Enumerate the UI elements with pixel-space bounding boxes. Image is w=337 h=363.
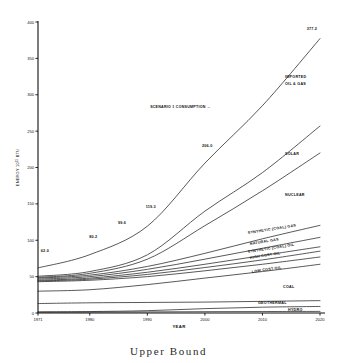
y-tick-label: 150 (27, 201, 35, 206)
y-tick-label: 300 (27, 92, 35, 97)
series-label-nuclear: NUCLEAR (285, 193, 305, 197)
axes: 0501001502002503003504001971198019902000… (27, 20, 325, 330)
series-labels: IMPORTEDOIL & GASSOLARNUCLEARSYNTHETIC (… (248, 75, 307, 312)
series-line-solar (38, 153, 320, 277)
energy-projection-figure: 0501001502002503003504001971198019902000… (0, 0, 337, 363)
value-1971: 62.0 (41, 249, 49, 253)
series-label-low-cost-oil: LOW COST OIL (252, 265, 283, 274)
y-tick-label: 400 (27, 20, 35, 25)
y-axis-title: ENERGY 1015 BTU (15, 149, 20, 186)
y-tick-label: 250 (27, 129, 35, 134)
x-tick-label: 1990 (143, 317, 153, 322)
scenario-arrow: SCENARIO 1 CONSUMPTION → (150, 105, 211, 109)
x-axis-title: YEAR (172, 324, 186, 329)
y-tick-label: 50 (29, 274, 34, 279)
y-tick-label: 0 (32, 311, 35, 316)
x-tick-label: 1971 (33, 317, 43, 322)
value-2000: 206.0 (202, 144, 213, 148)
x-tick-label: 2010 (258, 317, 268, 322)
value-1990: 119.3 (146, 205, 156, 209)
series-curves (38, 39, 320, 313)
series-line-scenario-1-consumption (38, 39, 320, 268)
chart-canvas: 0501001502002503003504001971198019902000… (0, 0, 337, 363)
series-label-synthetic-coal-gas: SYNTHETIC (COAL) GAS (248, 223, 297, 235)
x-tick-label: 1980 (85, 317, 95, 322)
y-tick-label: 350 (27, 56, 35, 61)
series-line-geothermal (38, 306, 320, 311)
value-2020: 377.2 (307, 27, 318, 31)
value-1985: 99.6 (118, 221, 126, 225)
series-label-coal: COAL (283, 285, 295, 289)
x-tick-label: 2020 (315, 317, 325, 322)
y-axis-title-text: ENERGY 1015 BTU (15, 149, 20, 186)
figure-caption: Upper Bound (0, 345, 337, 357)
y-tick-label: 200 (27, 165, 35, 170)
series-label-geothermal: GEOTHERMAL (258, 301, 287, 305)
value-labels: SCENARIO 1 CONSUMPTION →62.080.299.6119.… (41, 27, 317, 253)
series-label-hydro: HYDRO (288, 308, 303, 312)
x-tick-label: 2000 (200, 317, 210, 322)
series-label-imported-oil-gas: OIL & GAS (285, 82, 306, 86)
series-label-imported-oil-gas: IMPORTED (285, 75, 307, 79)
series-label-solar: SOLAR (285, 152, 299, 156)
y-tick-label: 100 (27, 238, 35, 243)
value-1980: 80.2 (89, 235, 97, 239)
series-label-natural-gas: NATURAL GAS (250, 237, 280, 246)
